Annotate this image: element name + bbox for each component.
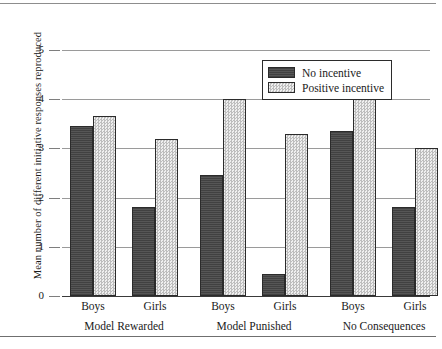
x-axis-group-label: Model Punished	[179, 320, 329, 332]
bar	[392, 207, 415, 296]
bar	[353, 99, 376, 296]
x-axis-category-label: Boys	[193, 300, 253, 312]
y-tick-label-2: 2	[26, 192, 44, 203]
legend-label-no-incentive: No incentive	[302, 67, 361, 79]
y-tick-mark-0	[49, 296, 60, 297]
y-tick-label-0: 0	[26, 290, 44, 301]
bar	[70, 126, 93, 296]
bar	[223, 99, 246, 296]
y-tick-mark-3	[49, 148, 60, 149]
bar	[93, 116, 116, 296]
legend-swatch-positive-incentive	[268, 82, 295, 93]
bar	[285, 134, 308, 296]
x-axis-category-label: Boys	[63, 300, 123, 312]
legend-swatch-no-incentive	[268, 67, 295, 78]
legend-item-no-incentive: No incentive	[268, 65, 384, 80]
x-axis-category-label: Girls	[125, 300, 185, 312]
bar	[200, 175, 223, 296]
x-axis-category-label: Boys	[323, 300, 383, 312]
bar	[132, 207, 155, 296]
y-tick-mark-4	[49, 99, 60, 100]
x-axis-category-label: Girls	[385, 300, 442, 312]
x-axis-group-label: Model Rewarded	[49, 320, 199, 332]
bar	[155, 139, 178, 296]
gridline-0	[62, 296, 430, 297]
legend-item-positive-incentive: Positive incentive	[268, 80, 384, 95]
y-tick-label-3: 3	[26, 142, 44, 153]
y-tick-mark-1	[49, 247, 60, 248]
x-axis-category-label: Girls	[255, 300, 315, 312]
y-tick-mark-2	[49, 198, 60, 199]
x-axis-group-label: No Consequences	[309, 320, 442, 332]
y-tick-label-5: 5	[26, 44, 44, 55]
y-tick-label-1: 1	[26, 241, 44, 252]
y-tick-mark-5	[49, 50, 60, 51]
legend-label-positive-incentive: Positive incentive	[302, 82, 384, 94]
chart-legend: No incentive Positive incentive	[262, 60, 392, 100]
y-tick-label-4: 4	[26, 93, 44, 104]
bar	[415, 148, 438, 296]
bar	[330, 131, 353, 296]
bar	[262, 274, 285, 296]
gridline-5	[62, 50, 430, 51]
